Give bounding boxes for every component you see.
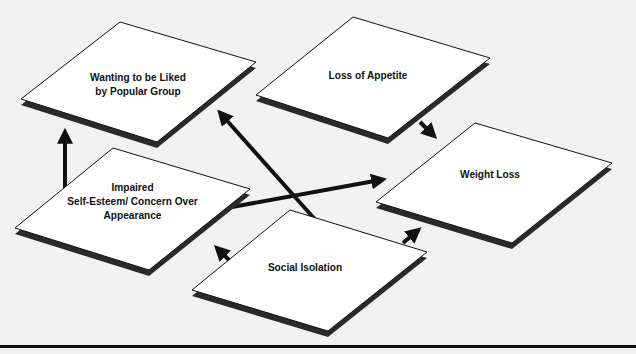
node-label-weight: Weight Loss (450, 167, 529, 181)
arrow-appetite-to-weight (420, 122, 432, 134)
label-line: Self-Esteem/ Concern Over (51, 194, 214, 208)
diagram-canvas (0, 0, 636, 354)
node-label-liked: Wanting to be Liked by Popular Group (76, 70, 199, 98)
label-line: Appearance (51, 208, 214, 222)
arrow-impaired-to-weight (232, 180, 380, 207)
arrow-social-to-weight (403, 232, 416, 243)
node-label-impaired: Impaired Self-Esteem/ Concern Over Appea… (51, 180, 214, 222)
arrow-social-to-liked (222, 115, 320, 225)
node-label-social: Social Isolation (261, 260, 349, 274)
node-label-appetite: Loss of Appetite (324, 68, 412, 82)
label-line: Loss of Appetite (324, 68, 412, 82)
bottom-divider (0, 345, 636, 348)
node-weight-loss (376, 123, 612, 249)
node-card (376, 123, 612, 243)
label-line: Impaired (51, 180, 214, 194)
label-line: Social Isolation (261, 260, 349, 274)
label-line: Weight Loss (450, 167, 529, 181)
label-line: by Popular Group (76, 84, 199, 98)
label-line: Wanting to be Liked (76, 70, 199, 84)
